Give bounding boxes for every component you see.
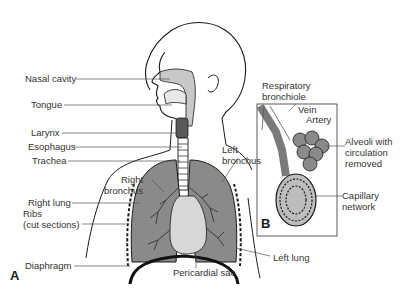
label-larynx: Larynx [31, 127, 60, 138]
panel-letter-b: B [261, 216, 270, 231]
face-profile [152, 52, 178, 120]
label-ribs: Ribs (cut sections) [23, 208, 80, 230]
neck-front [170, 120, 172, 150]
panel-letter-a: A [10, 268, 19, 283]
label-pericardial-sac: Pericardial sac [173, 267, 235, 278]
label-tongue: Tongue [31, 99, 62, 110]
label-nasal-cavity: Nasal cavity [25, 73, 76, 84]
capillary-network [276, 174, 316, 226]
head-outline [146, 23, 246, 119]
trachea-shape [178, 138, 188, 190]
label-esophagus: Esophagus [28, 141, 76, 152]
neck-back [222, 118, 226, 145]
label-trachea: Trachea [32, 155, 67, 166]
label-artery: Artery [306, 114, 331, 125]
label-alveoli: Alveoli with circulation removed [345, 136, 393, 169]
label-capillary-network: Capillary network [342, 190, 379, 212]
label-left-bronchus: Left bronchus [222, 144, 261, 166]
tongue-shape [164, 90, 186, 105]
label-right-bronchus: Right bronchus [104, 174, 143, 196]
respiratory-system-diagram: Nasal cavity Tongue Larynx Esophagus Tra… [0, 0, 402, 290]
larynx-shape [176, 118, 188, 138]
label-left-lung: Left lung [273, 252, 309, 263]
label-diaphragm: Diaphragm [25, 260, 71, 271]
label-right-lung: Right lung [28, 197, 71, 208]
label-respiratory-bronchiole: Respiratory bronchiole [262, 80, 311, 102]
ear [208, 75, 218, 92]
